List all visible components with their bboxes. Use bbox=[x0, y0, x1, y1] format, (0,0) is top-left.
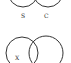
top-venn-diagram: S C bbox=[8, 0, 63, 19]
circle-x bbox=[6, 37, 38, 63]
bottom-venn-diagram: X bbox=[6, 36, 63, 63]
circle-c bbox=[33, 0, 63, 7]
label-x: X bbox=[15, 54, 20, 61]
label-s: S bbox=[21, 12, 25, 19]
circle-right bbox=[29, 36, 63, 63]
venn-diagrams: S C X bbox=[0, 0, 71, 63]
label-c: C bbox=[44, 12, 49, 19]
circle-s bbox=[8, 0, 38, 7]
